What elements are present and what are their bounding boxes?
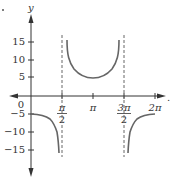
y-axis-label: y <box>27 2 34 13</box>
svg-text:5: 5 <box>19 71 25 82</box>
y-axis-arrow-up-icon <box>29 14 34 23</box>
label-dot <box>2 9 4 11</box>
y-axis-arrow-down-icon <box>29 168 34 177</box>
curve-branch-2 <box>67 40 119 78</box>
svg-text:−10: −10 <box>4 126 25 137</box>
x-axis-arrow-left-icon <box>9 94 18 99</box>
x-tick-labels: π 2 π 3π 2 2π <box>57 102 162 125</box>
svg-text:−15: −15 <box>4 144 25 155</box>
svg-text:15: 15 <box>12 36 25 47</box>
secant-graph: y . 15 10 5 −5 −10 −15 0 π 2 π 3π 2 <box>0 0 171 180</box>
svg-text:2π: 2π <box>148 102 162 113</box>
curve-branch-3 <box>128 114 155 153</box>
x-axis-arrow-right-icon <box>157 94 166 99</box>
origin-label: 0 <box>18 99 24 110</box>
x-axis-label: . <box>167 92 170 103</box>
svg-text:10: 10 <box>12 54 25 65</box>
svg-text:π: π <box>89 102 97 113</box>
curve-branch-1 <box>31 114 59 153</box>
